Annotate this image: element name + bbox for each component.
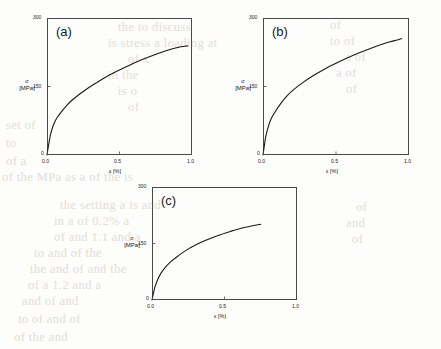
chart-panel-c: (c) 300 150 0 σ [MPa] 0.0 0.5 1.0 ε [%] bbox=[105, 185, 330, 349]
yaxis-unit-b: [MPa] bbox=[228, 85, 258, 92]
figure-page: the to discussis stress a loading atof x… bbox=[0, 0, 441, 349]
showthrough-line: of a 1.2 and a bbox=[28, 278, 101, 293]
showthrough-line: of bbox=[352, 232, 363, 247]
yaxis-label-c: σ [MPa] bbox=[117, 235, 147, 248]
showthrough-line: to of and of bbox=[18, 312, 81, 327]
ytick-a-0: 0 bbox=[41, 150, 44, 156]
xtick-b-0: 0.0 bbox=[258, 158, 265, 164]
xtick-a-10: 1.0 bbox=[187, 158, 194, 164]
curve-path bbox=[47, 46, 188, 155]
ytick-c-0: 0 bbox=[146, 295, 149, 301]
xtick-b-05: 0.5 bbox=[331, 158, 338, 164]
chart-panel-b: (b) 300 150 0 σ [MPa] 0.0 0.5 1.0 ε [%] bbox=[216, 0, 441, 180]
curve-path bbox=[263, 39, 402, 155]
ytick-b-300: 300 bbox=[249, 14, 257, 20]
ytick-a-300: 300 bbox=[33, 14, 41, 20]
xtick-c-05: 0.5 bbox=[219, 303, 226, 309]
xaxis-label-b: ε [%] bbox=[326, 168, 338, 174]
showthrough-line: of the and bbox=[14, 330, 68, 345]
curve-c bbox=[152, 187, 297, 300]
ytick-c-300: 300 bbox=[138, 183, 146, 189]
curve-b bbox=[263, 18, 409, 155]
chart-panel-a: (a) 300 150 0 σ [MPa] 0.0 0.5 1.0 ε [%] bbox=[0, 0, 210, 180]
xaxis-label-c: ε [%] bbox=[214, 313, 226, 319]
yaxis-label-b: σ [MPa] bbox=[228, 78, 258, 91]
xtick-a-05: 0.5 bbox=[114, 158, 121, 164]
showthrough-line: of bbox=[356, 200, 367, 215]
xtick-c-10: 1.0 bbox=[292, 303, 299, 309]
showthrough-line: and bbox=[346, 216, 365, 231]
yaxis-unit-c: [MPa] bbox=[117, 242, 147, 249]
showthrough-line: and of and bbox=[22, 294, 79, 309]
xtick-c-0: 0.0 bbox=[147, 303, 154, 309]
curve-path bbox=[152, 224, 261, 300]
xaxis-label-a: ε [%] bbox=[109, 168, 121, 174]
ytick-b-0: 0 bbox=[257, 150, 260, 156]
yaxis-unit-a: [MPa] bbox=[12, 85, 42, 92]
xtick-a-0: 0.0 bbox=[42, 158, 49, 164]
curve-a bbox=[47, 18, 192, 155]
yaxis-label-a: σ [MPa] bbox=[12, 78, 42, 91]
xtick-b-10: 1.0 bbox=[404, 158, 411, 164]
showthrough-line: to and of the bbox=[34, 246, 102, 261]
